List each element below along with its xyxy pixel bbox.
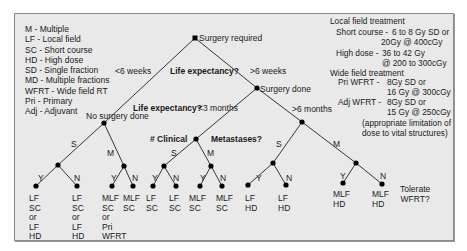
leaf-outcome: LFSC [169,194,181,213]
branch-m-no-surgery: M [107,148,114,158]
branch-n: N [173,173,179,183]
pri-wfrt-label: Pri WFRT - [338,77,379,87]
legend-item: SC - Short course [25,45,110,55]
leaf-outcome: MLFHD [372,190,389,209]
question-life-expectancy-2: Life expectancy? [133,103,202,113]
legend-item: SD - Single fraction [25,65,110,75]
high-dose-dose-2: @ 200 to 300cGy [382,58,447,68]
leaf-outcome: LFSCorLFHD [72,194,84,242]
branch-lt-3-months: <3 months [198,103,238,113]
branch-gt-6-months: >6 months [292,104,332,114]
leaf-outcome: LFHD [278,194,290,213]
leaf-outcome: MLFSC [123,194,140,213]
abbreviation-legend: M - Multiple LF - Local field SC - Short… [25,24,110,117]
branch-m-gt6: M [333,139,340,149]
question-tolerate-wfrt: TolerateWFRT? [400,185,430,204]
adj-wfrt-dose-1: 8Gy SD or [387,97,426,107]
pri-wfrt-dose-2: 16 Gy @ 300cGy [387,87,451,97]
question-life-expectancy-1: Life expectancy? [170,66,239,76]
branch-n: N [74,173,80,183]
branch-n: N [286,173,292,183]
branch-n: N [380,171,386,181]
note-line-2: dose to vital structures) [362,128,448,138]
branch-y: Y [340,171,346,181]
branch-n: N [220,173,226,183]
legend-item: LF - Local field [25,34,110,44]
branch-m-clinical: M [207,148,214,158]
leaf-outcome: LFSC [146,194,158,213]
legend-item: M - Multiple [25,24,110,34]
legend-item: MD - Multiple fractions [25,75,110,85]
note-line-1: (appropriate limitation of [362,118,451,128]
adj-wfrt-label: Adj WFRT - [338,97,381,107]
short-course-dose-1: 6 to 8 Gy SD or [392,27,449,37]
branch-s-gt6: S [276,139,282,149]
question-metastases: Metastases? [211,134,262,144]
branch-s-no-surgery: S [71,139,77,149]
branch-lt-6-weeks: <6 weeks [115,66,151,76]
legend-item: Pri - Primary [25,96,110,106]
leaf-outcome: MLFSC [189,194,206,213]
leaf-outcome: MLFSC [216,194,233,213]
node-label-surgery-done: Surgery done [260,84,311,94]
node-label-surgery-required: Surgery required [199,33,262,43]
high-dose-dose-1: 36 to 42 Gy [382,48,425,58]
branch-s-clinical: S [171,148,177,158]
pri-wfrt-dose-1: 8Gy SD or [387,77,426,87]
adj-wfrt-dose-2: 15 Gy @ 250cGy [387,107,451,117]
leaf-outcome: MLFHD [333,190,350,209]
legend-item: HD - High dose [25,55,110,65]
legend-item: WFRT - Wide field RT [25,86,110,96]
short-course-label: Short course - [336,27,388,37]
local-field-title: Local field treatment [330,16,405,26]
node-surgery-required [193,36,198,41]
branch-y: Y [38,173,44,183]
leaf-outcome: LFHD [245,194,257,213]
branch-y: Y [256,173,262,183]
high-dose-label: High dose - [336,48,378,58]
branch-y: Y [200,173,206,183]
branch-n: N [132,173,138,183]
branch-y: Y [152,173,158,183]
branch-gt-6-weeks: >6 weeks [250,66,286,76]
question-clinical: # Clinical [150,134,187,144]
leaf-outcome: LFSCorLFHD [29,194,41,242]
branch-y: Y [111,173,117,183]
short-course-dose-2: 20Gy @ 400cGy [381,37,442,47]
